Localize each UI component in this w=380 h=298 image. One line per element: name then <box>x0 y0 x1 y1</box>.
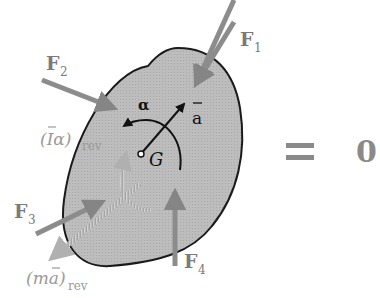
free-body-diagram: G α a F 1 F 2 F 3 F 4 (Iα) rev (ma) rev … <box>0 0 380 298</box>
label-ma-rev: (ma) rev <box>26 268 88 293</box>
svg-text:3: 3 <box>28 213 36 227</box>
label-f3: F 3 <box>14 200 36 227</box>
label-f2: F 2 <box>46 52 68 79</box>
label-f4: F 4 <box>184 250 206 277</box>
svg-text:F: F <box>46 52 60 74</box>
svg-text:F: F <box>184 250 198 272</box>
svg-text:4: 4 <box>198 263 206 277</box>
svg-text:F: F <box>14 200 28 222</box>
svg-text:rev: rev <box>82 139 102 153</box>
svg-text:(Iα): (Iα) <box>40 129 71 149</box>
label-g: G <box>149 149 163 170</box>
equals-sign <box>286 143 314 160</box>
label-f1: F 1 <box>240 28 262 55</box>
force-f2-arrow <box>42 80 114 108</box>
svg-text:(ma): (ma) <box>26 268 66 288</box>
svg-text:a: a <box>192 108 202 128</box>
svg-text:1: 1 <box>254 41 262 55</box>
equation-rhs: 0 <box>356 134 377 169</box>
label-alpha: α <box>138 96 150 114</box>
svg-text:2: 2 <box>60 65 68 79</box>
svg-text:F: F <box>240 28 254 50</box>
center-of-mass-point <box>138 151 144 157</box>
svg-text:rev: rev <box>68 279 88 293</box>
